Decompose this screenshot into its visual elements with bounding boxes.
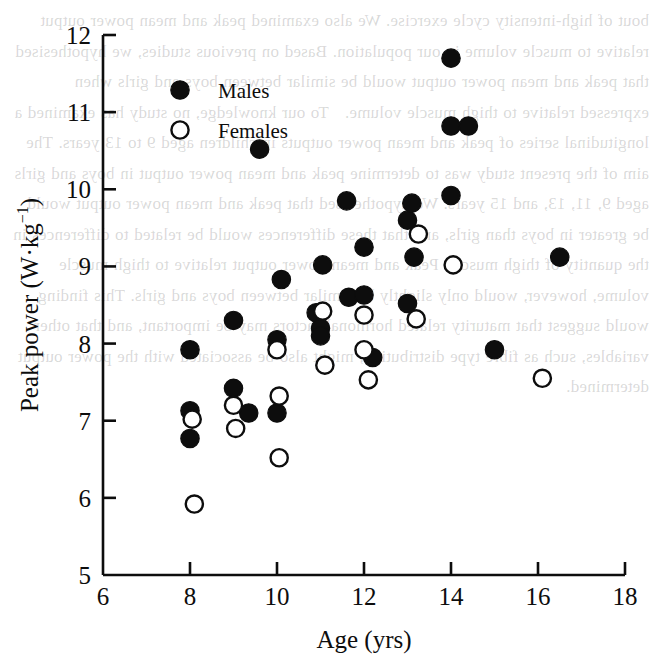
x-axis-title: Age (yrs)	[316, 626, 411, 654]
data-point-males-26	[459, 117, 477, 135]
x-tick-label-6: 6	[97, 583, 110, 610]
data-point-males-0	[181, 341, 199, 359]
legend-marker-males	[171, 81, 189, 99]
data-point-females-14	[445, 256, 462, 273]
data-point-females-9	[355, 306, 372, 323]
data-point-females-2	[225, 397, 242, 414]
x-tick-label-14: 14	[439, 583, 465, 610]
x-tick-label-8: 8	[184, 583, 197, 610]
data-point-males-25	[442, 186, 460, 204]
data-point-males-16	[355, 286, 373, 304]
x-tick-label-10: 10	[265, 583, 290, 610]
data-point-females-4	[268, 341, 285, 358]
data-point-males-12	[311, 327, 329, 345]
scatter-plot: 56789101112681012141618Age (yrs)Peak pow…	[0, 0, 661, 659]
data-point-males-24	[442, 117, 460, 135]
data-point-females-11	[360, 371, 377, 388]
data-point-females-5	[271, 387, 288, 404]
data-point-males-22	[405, 248, 423, 266]
data-point-males-23	[442, 49, 460, 67]
y-tick-label-11: 11	[67, 99, 91, 126]
data-point-females-3	[227, 420, 244, 437]
data-point-males-14	[337, 192, 355, 210]
x-tick-label-18: 18	[613, 583, 638, 610]
y-axis-title: Peak power (W·kg−1)	[14, 198, 44, 412]
data-point-females-12	[408, 310, 425, 327]
legend-label-males: Males	[218, 79, 269, 103]
y-tick-label-9: 9	[79, 253, 92, 280]
data-point-females-1	[186, 495, 203, 512]
data-point-males-3	[224, 311, 242, 329]
y-tick-label-6: 6	[79, 485, 92, 512]
data-point-males-28	[551, 248, 569, 266]
legend-marker-females	[171, 121, 188, 138]
data-point-males-4	[224, 379, 242, 397]
data-point-females-10	[355, 341, 372, 358]
data-point-males-13	[313, 256, 331, 274]
data-point-males-8	[268, 404, 286, 422]
data-point-females-6	[271, 449, 288, 466]
data-point-males-9	[272, 270, 290, 288]
y-tick-label-7: 7	[79, 408, 92, 435]
data-point-males-27	[485, 341, 503, 359]
data-point-males-17	[355, 238, 373, 256]
x-tick-label-16: 16	[526, 583, 551, 610]
data-point-females-8	[316, 357, 333, 374]
y-tick-label-12: 12	[66, 22, 91, 49]
y-tick-label-10: 10	[66, 176, 91, 203]
data-point-females-15	[534, 370, 551, 387]
data-point-males-2	[181, 429, 199, 447]
figure-container: bout of high-intensity cycle exercise. W…	[0, 0, 661, 659]
y-tick-label-5: 5	[79, 562, 92, 589]
data-point-females-13	[410, 225, 427, 242]
series-females	[184, 225, 551, 512]
y-tick-label-8: 8	[79, 331, 92, 358]
series-males	[181, 49, 569, 448]
data-point-males-21	[403, 194, 421, 212]
data-point-females-0	[184, 411, 201, 428]
legend-label-females: Females	[218, 119, 288, 143]
x-tick-label-12: 12	[352, 583, 377, 610]
data-point-females-7	[314, 303, 331, 320]
